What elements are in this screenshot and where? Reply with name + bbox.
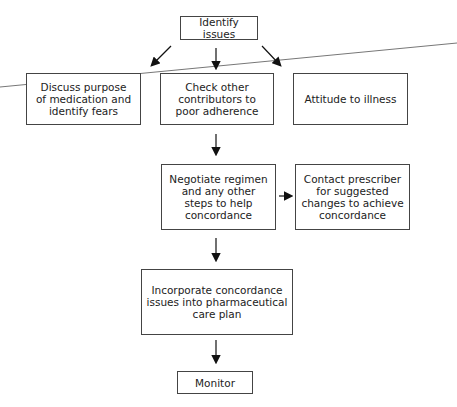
node-negotiate-regimen: Negotiate regimen and any other steps to…: [161, 164, 276, 230]
node-discuss-purpose: Discuss purpose of medication and identi…: [26, 73, 141, 125]
arrow-to-discuss: [152, 46, 171, 65]
node-contact-prescriber: Contact prescriber for suggested changes…: [295, 164, 410, 230]
node-monitor: Monitor: [177, 371, 253, 394]
node-incorporate-care-plan: Incorporate concordance issues into phar…: [141, 269, 293, 335]
node-identify-issues: Identify issues: [180, 16, 258, 40]
arrow-to-attitude: [262, 46, 280, 65]
node-attitude-to-illness: Attitude to illness: [293, 73, 408, 125]
node-check-contributors: Check other contributors to poor adheren…: [160, 73, 274, 125]
